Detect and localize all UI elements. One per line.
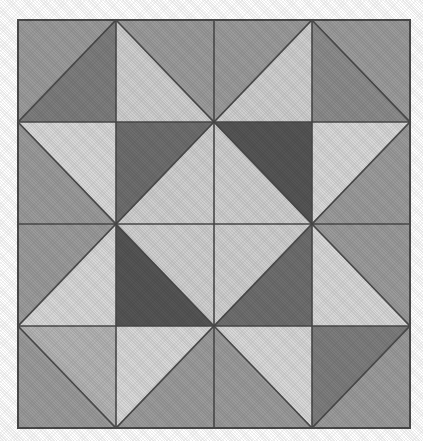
quilt-pattern-canvas: [0, 0, 423, 441]
quilt-pattern-figure: [0, 0, 423, 441]
